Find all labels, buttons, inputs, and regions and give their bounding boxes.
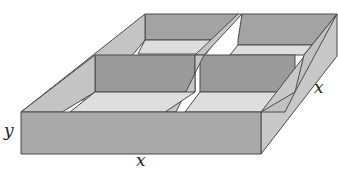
height-label: y xyxy=(3,120,14,140)
divided-box-diagram: y x x xyxy=(0,0,338,169)
side-depth-label: x xyxy=(314,77,324,97)
front-face xyxy=(21,112,261,154)
back-right-floor xyxy=(230,45,312,55)
middle-cross-wall-left xyxy=(95,55,195,92)
front-width-label: x xyxy=(136,150,146,169)
